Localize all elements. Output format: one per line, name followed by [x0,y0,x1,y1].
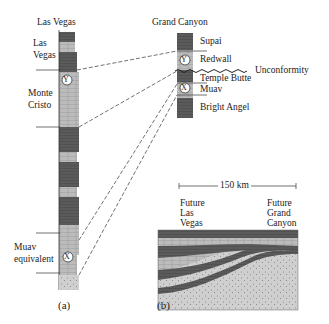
unit-temple-butte: Temple Butte [200,73,251,84]
unconformity-label: Unconformity [255,65,309,76]
unit-muav-eq-1: Muav [14,242,36,253]
marker-y-label-a: Y [63,74,69,85]
scale-label: 150 km [218,180,251,191]
unit-monte-cristo-1: Monte [28,88,53,99]
cross-section [158,230,298,310]
marker-x-label-a: X [64,251,70,262]
unit-las-vegas-1: Las [33,38,47,49]
unit-las-vegas-2: Vegas [33,50,56,61]
unit-muav: Muav [200,84,222,95]
marker-x-label-b: X [181,82,187,93]
future-gc-3: Canyon [267,218,297,229]
marker-y-label-b: Y [181,54,187,65]
diagram-graphics [0,0,329,324]
unit-supai: Supai [200,36,222,47]
unit-bright-angel: Bright Angel [200,102,249,113]
grand-canyon-column [177,33,193,118]
panel-b-title: Grand Canyon [152,17,208,28]
unit-redwall: Redwall [200,54,232,65]
caption-a: (a) [58,300,70,311]
caption-b: (b) [157,300,170,311]
future-lv-3: Vegas [180,218,203,229]
unit-monte-cristo-2: Cristo [28,100,51,111]
panel-a-title: Las Vegas [37,17,76,28]
unit-muav-eq-2: equivalent [14,254,54,265]
